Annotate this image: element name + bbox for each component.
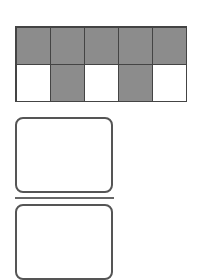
numerator-box[interactable] — [15, 117, 113, 193]
grid-cell-shaded — [16, 27, 51, 65]
grid-cell-shaded — [50, 27, 85, 65]
fraction-grid — [15, 26, 187, 102]
grid-cell-shaded — [152, 27, 187, 65]
grid-cell-empty — [16, 64, 51, 102]
grid-cell-shaded — [84, 27, 119, 65]
denominator-box[interactable] — [15, 204, 113, 280]
fraction-bar — [15, 197, 114, 199]
grid-cell-shaded — [118, 27, 153, 65]
grid-cell-empty — [152, 64, 187, 102]
grid-cell-empty — [84, 64, 119, 102]
grid-cell-shaded — [118, 64, 153, 102]
grid-cell-shaded — [50, 64, 85, 102]
